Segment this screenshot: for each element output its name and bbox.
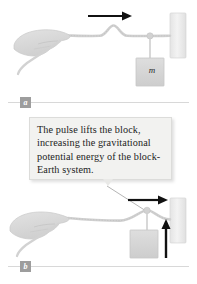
pulse-direction-arrow: [128, 196, 168, 205]
mass-label-a: m: [139, 65, 165, 75]
hanging-block: [130, 230, 158, 258]
panel-b-caption: b: [8, 259, 189, 273]
caption-rule-left: [8, 266, 20, 267]
block-lift-arrow: [162, 219, 171, 258]
caption-rule-right: [31, 102, 189, 103]
annotation-callout-text: The pulse lifts the block, increasing th…: [37, 123, 165, 176]
pulse-direction-arrow: [88, 12, 132, 21]
physics-figure: m a The pulse lifts the block, increasin…: [0, 0, 197, 284]
wall-support: [170, 13, 186, 58]
annotation-callout: The pulse lifts the block, increasing th…: [29, 117, 172, 180]
panel-label-b: b: [20, 261, 31, 272]
panel-a-caption: a: [8, 95, 189, 109]
rope-with-pulse: [68, 26, 170, 37]
annotation-callout-tail: [103, 179, 113, 186]
rope-with-pulse: [68, 210, 170, 220]
wall-support: [170, 198, 186, 243]
caption-rule-left: [8, 102, 20, 103]
caption-rule-right: [31, 266, 189, 267]
panel-a-illustration: [0, 0, 197, 110]
panel-label-a: a: [20, 97, 31, 108]
panel-a: m: [0, 0, 197, 110]
rope-knot: [144, 207, 150, 213]
